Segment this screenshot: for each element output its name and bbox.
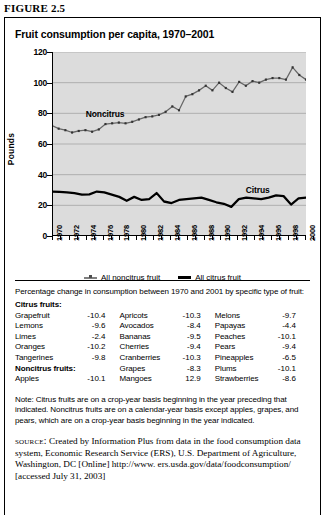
y-axis-tick-label: 80 [11,108,47,118]
x-axis-tick [195,236,196,240]
y-axis-tick [47,113,52,114]
y-axis-tick-label: 100 [11,78,47,88]
source-body: Created by Information Plus from data in… [15,436,301,481]
x-axis-tick [271,236,272,240]
fruit-pct-value: -9.4 [266,342,310,353]
fruit-name: Papayas [215,321,266,332]
x-axis-tick [86,236,87,240]
fruit-pct-value [76,300,120,311]
x-axis-tick [220,236,221,240]
note-text: Note: Citrus fruits are on a crop-year b… [5,385,320,427]
fruit-data-row: Pineapples-6.5 [215,353,310,364]
percentage-column: Citrus fruits:Grapefruit-10.4Lemons-9.6L… [15,300,120,385]
fruit-data-row: Apples-10.1 [15,374,120,385]
x-axis-tick [170,236,171,240]
fruit-name: Avocados [120,321,171,332]
fruit-pct-value: -8.4 [171,321,215,332]
percentage-columns: Citrus fruits:Grapefruit-10.4Lemons-9.6L… [15,300,310,385]
x-axis-tick [204,236,205,240]
fruit-name: Oranges [15,342,76,353]
source-label: source: [15,435,47,446]
fruit-name: Grapes [120,364,171,375]
y-axis-tick [47,144,52,145]
fruit-name: Mangoes [120,374,171,385]
y-axis-tick [47,205,52,206]
x-axis-tick [77,236,78,240]
series-annotation-noncitrus: Noncitrus [86,109,125,119]
y-axis-title: Pounds [6,133,16,165]
legend-item-citrus: All citrus fruit [178,273,241,282]
citrus-line-swatch-icon [178,276,191,279]
fruit-data-row: Oranges-10.2 [15,342,120,353]
fruit-data-row: Tangerines-9.8 [15,353,120,364]
figure-label: FIGURE 2.5 [0,0,325,17]
fruit-pct-value: -8.6 [266,374,310,385]
fruit-data-row: Papayas-4.4 [215,321,310,332]
fruit-pct-value: 12.9 [171,374,215,385]
spacer-row [120,300,215,311]
fruit-name: Lemons [15,321,76,332]
x-axis-tick [153,236,154,240]
legend-item-noncitrus: All noncitrus fruit [84,273,160,282]
x-axis-tick [246,236,247,240]
fruit-data-row: Peaches-10.1 [215,332,310,343]
fruit-data-row: Lemons-9.6 [15,321,120,332]
fruit-pct-value: -9.7 [266,311,310,322]
fruit-pct-value: -10.4 [76,311,120,322]
x-axis-tick [136,236,137,240]
x-axis-tick [313,236,314,240]
y-axis-tick-label: 60 [11,139,47,149]
x-axis-tick [103,236,104,240]
fruit-data-row: Bananas-9.5 [120,332,215,343]
fruit-data-row: Grapes-8.3 [120,364,215,375]
x-axis-tick [296,236,297,240]
x-axis-tick [178,236,179,240]
percentage-column: Melons-9.7Papayas-4.4Peaches-10.1Pears-9… [215,300,310,385]
x-axis-tick [128,236,129,240]
fruit-pct-value: -9.6 [76,321,120,332]
percentage-heading: Percentage change in consumption between… [15,287,310,296]
x-axis-tick [161,236,162,240]
fruit-data-row: Limes-2.4 [15,332,120,343]
x-axis-tick [111,236,112,240]
y-axis-tick-label: 0 [11,231,47,241]
y-axis-tick-label: 40 [11,170,47,180]
fruit-data-row: Avocados-8.4 [120,321,215,332]
x-axis-tick [229,236,230,240]
x-axis-tick [52,236,53,240]
figure-box: Fruit consumption per capita, 1970–2001 … [4,17,321,515]
fruit-name: Noncitrus fruits: [15,364,76,375]
x-axis-tick [237,236,238,240]
fruit-name: Peaches [215,332,266,343]
fruit-data-row: Cherries-9.4 [120,342,215,353]
fruit-pct-value: -10.2 [76,342,120,353]
figure-title: Fruit consumption per capita, 1970–2001 [5,18,320,40]
fruit-name: Bananas [120,332,171,343]
category-heading-row: Noncitrus fruits: [15,364,120,375]
fruit-name: Apples [15,374,76,385]
fruit-name: Melons [215,311,266,322]
fruit-data-row: Melons-9.7 [215,311,310,322]
legend-label-citrus: All citrus fruit [195,273,241,282]
fruit-pct-value: -10.3 [171,311,215,322]
fruit-pct-value: -2.4 [76,332,120,343]
y-axis-tick [47,83,52,84]
fruit-data-row: Pears-9.4 [215,342,310,353]
x-axis-tick [119,236,120,240]
x-axis-tick [94,236,95,240]
x-axis-tick [288,236,289,240]
fruit-pct-value: -9.4 [171,342,215,353]
fruit-pct-value: -10.1 [266,364,310,375]
fruit-data-row: Plums-10.1 [215,364,310,375]
fruit-pct-value: -9.8 [76,353,120,364]
fruit-name: Cherries [120,342,171,353]
x-axis-tick [69,236,70,240]
fruit-data-row: Grapefruit-10.4 [15,311,120,322]
fruit-pct-value: -4.4 [266,321,310,332]
y-axis-line [52,52,53,236]
chart-plot-area [52,52,306,236]
y-axis-tick [47,175,52,176]
series-annotation-citrus: Citrus [246,185,270,195]
x-axis-tick [212,236,213,240]
fruit-pct-value: -10.1 [266,332,310,343]
